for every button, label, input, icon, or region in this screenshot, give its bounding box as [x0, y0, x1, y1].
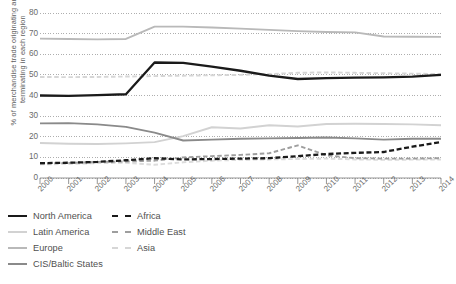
legend-item[interactable]: CIS/Baltic States	[8, 256, 103, 272]
legend-label: Africa	[137, 211, 161, 221]
series-line-north-america	[40, 63, 441, 96]
legend-item[interactable]: Asia	[112, 240, 186, 256]
legend-item[interactable]: Africa	[112, 208, 186, 224]
series-line-europe	[40, 27, 441, 40]
legend-swatch-icon	[112, 231, 131, 233]
series-line-middle-east	[40, 145, 441, 163]
legend-item[interactable]: North America	[8, 208, 103, 224]
legend-swatch-icon	[8, 215, 27, 217]
series-line-latin-america	[40, 124, 441, 144]
legend-item[interactable]: Latin America	[8, 224, 103, 240]
legend-label: Europe	[33, 243, 63, 253]
legend-column-2: AfricaMiddle EastAsia	[112, 208, 186, 256]
legend-item[interactable]: Middle East	[112, 224, 186, 240]
legend-label: Latin America	[33, 227, 89, 237]
legend-swatch-icon	[112, 247, 131, 249]
legend-column-1: North AmericaLatin AmericaEuropeCIS/Balt…	[8, 208, 103, 272]
legend-swatch-icon	[8, 247, 27, 249]
line-chart-svg	[0, 0, 445, 205]
legend-swatch-icon	[8, 263, 27, 265]
legend-label: North America	[33, 211, 92, 221]
legend-label: Middle East	[137, 227, 186, 237]
legend-item[interactable]: Europe	[8, 240, 103, 256]
legend-label: CIS/Baltic States	[33, 259, 103, 269]
series-line-cis-baltic-states	[40, 123, 441, 140]
legend-swatch-icon	[8, 231, 27, 233]
chart-plot-area: % of merchandise trade originating and t…	[0, 0, 445, 205]
legend-label: Asia	[137, 243, 155, 253]
legend-swatch-icon	[112, 215, 131, 217]
